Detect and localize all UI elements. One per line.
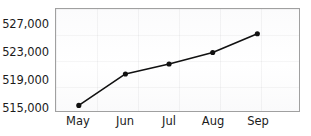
x-tick-label-jul: Jul — [162, 114, 176, 128]
series-polyline — [79, 34, 258, 106]
y-tick-label-515000: 515,000 — [2, 103, 49, 114]
y-tick-label-519000: 519,000 — [2, 75, 49, 86]
x-tick-label-jun: Jun — [116, 114, 134, 128]
line-chart-figure: 527,000 523,000 519,000 515,000 May Jun … — [0, 0, 311, 136]
series-markers — [76, 31, 260, 108]
x-tick-label-aug: Aug — [202, 114, 224, 128]
data-series-line — [56, 9, 299, 111]
y-tick-label-527000: 527,000 — [2, 19, 49, 30]
x-tick-label-sep: Sep — [247, 114, 269, 128]
data-point-sep — [255, 31, 260, 36]
y-tick-label-523000: 523,000 — [2, 47, 49, 58]
x-tick-label-may: May — [66, 114, 90, 128]
data-point-may — [76, 103, 81, 108]
data-point-jul — [166, 61, 171, 66]
x-axis: May Jun Jul Aug Sep — [0, 114, 311, 136]
data-point-jun — [123, 71, 128, 76]
plot-area — [55, 8, 300, 112]
data-point-aug — [210, 50, 215, 55]
